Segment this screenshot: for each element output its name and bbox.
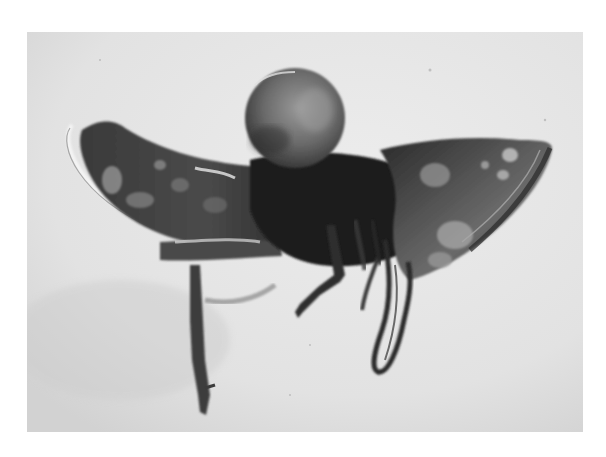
specimen-photo <box>27 32 583 432</box>
insect-specimen-illustration <box>27 32 583 432</box>
